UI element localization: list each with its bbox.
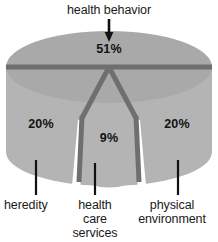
- label-health-care-line-3: services: [64, 226, 126, 240]
- label-physical-env-line-1: physical: [126, 198, 218, 212]
- label-health-care-line-2: care: [64, 212, 126, 226]
- value-health-behavior: 51%: [0, 42, 218, 56]
- label-heredity: heredity: [4, 198, 48, 212]
- label-physical-env-line-2: environment: [126, 212, 218, 226]
- value-health-care-services: 9%: [78, 131, 140, 145]
- label-physical-environment: physical environment: [126, 198, 218, 226]
- label-health-behavior: health behavior: [0, 3, 218, 17]
- center-wedge-face: [82, 118, 136, 188]
- value-physical-environment: 20%: [146, 117, 208, 131]
- chart-figure: health behavior 51% 20% 9% 20% heredity …: [0, 0, 218, 242]
- divider-wall-left: [79, 116, 82, 182]
- divider-wall-right: [136, 116, 139, 182]
- label-health-care-line-1: health: [64, 198, 126, 212]
- value-heredity: 20%: [10, 117, 72, 131]
- label-health-care-services: health care services: [64, 198, 126, 240]
